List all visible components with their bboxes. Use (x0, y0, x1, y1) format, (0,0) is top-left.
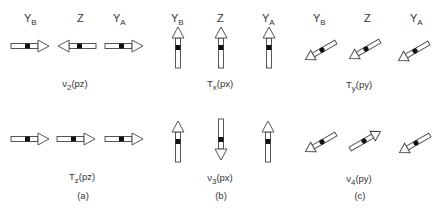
arrow-down-left-icon (303, 129, 339, 156)
atom-label-ya: YA (410, 12, 423, 29)
atom-label-z: Z (77, 12, 84, 24)
label-sub: A (120, 18, 125, 27)
label-sub: A (269, 18, 274, 27)
mode-label-tz-pz: Tz(pz) (69, 171, 95, 186)
label-sub: B (320, 18, 325, 27)
atom-label-ya: YA (262, 12, 275, 29)
arrow-down-left-icon (347, 36, 383, 63)
arrow-down-left-icon (396, 38, 432, 65)
mode-label-nu2-pz: ν2(pz) (62, 78, 88, 93)
atom-label-yb: YB (171, 12, 184, 29)
arrow-left-icon (58, 40, 96, 52)
label-sub: A (417, 18, 422, 27)
label-main: Z (77, 12, 84, 24)
mode-label-ty-py: Ty(py) (346, 79, 372, 94)
panel-a-mode1-arrows (11, 40, 143, 52)
atom-label-yb: YB (24, 12, 37, 29)
panel-c-mode1-arrows (303, 36, 432, 65)
panel-b-mode2-arrows (172, 119, 274, 162)
arrow-down-icon (215, 119, 227, 160)
panel-caption-c: (c) (354, 190, 365, 201)
label-main: Z (217, 12, 224, 24)
arrow-up-right-icon (347, 127, 383, 154)
arrow-down-left-icon (303, 37, 339, 64)
arrow-up-icon (263, 27, 275, 68)
mode-label-tx-px: Tx(px) (207, 78, 233, 93)
panel-a-mode2-arrows (11, 133, 143, 145)
arrow-right-icon (11, 40, 49, 52)
atom-label-z: Z (217, 12, 224, 24)
arrow-up-icon (172, 121, 184, 162)
panel-c-mode2-arrows (303, 127, 433, 158)
arrow-up-icon (172, 27, 184, 68)
arrow-up-icon (262, 121, 274, 162)
mode-label-nu4-py: ν4(py) (346, 173, 372, 188)
label-sub: B (178, 18, 183, 27)
arrow-right-icon (105, 40, 143, 52)
panel-caption-a: (a) (77, 190, 89, 201)
arrow-down-left-icon (397, 130, 433, 157)
label-sub: B (31, 18, 36, 27)
arrow-up-icon (215, 27, 227, 68)
arrow-right-icon (105, 133, 143, 145)
arrow-right-icon (11, 133, 49, 145)
atom-label-z: Z (364, 12, 371, 24)
arrow-right-icon (57, 133, 95, 145)
panel-b-mode1-arrows (172, 27, 275, 68)
mode-label-nu3-px: ν3(px) (207, 172, 233, 187)
atom-label-yb: YB (313, 12, 326, 29)
atom-label-ya: YA (113, 12, 126, 29)
panel-caption-b: (b) (215, 190, 227, 201)
label-main: Z (364, 12, 371, 24)
